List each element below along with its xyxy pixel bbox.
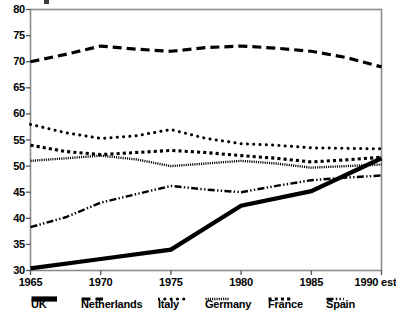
data-series-group [31,46,382,268]
x-axis-tick-label: 1990 est [355,276,396,288]
x-axis-tick-label: 1965 [19,276,43,288]
x-axis-tick-label: 1980 [229,276,253,288]
long-dashed-swatch [81,289,111,297]
legend-label: Germany [205,298,251,311]
plot-frame [31,10,382,271]
x-axis-tick-label: 1975 [159,276,183,288]
round-dotted-swatch [158,289,192,297]
legend-item-germany[interactable]: Germany [205,288,237,314]
chart-legend: UKNetherlandsItalyGermanyFranceSpain [0,288,390,314]
x-axis-tick-label: 1970 [89,276,113,288]
series-line-italy [31,124,382,149]
legend-label: Italy [158,298,179,311]
series-line-uk [31,158,382,268]
legend-item-italy[interactable]: Italy [158,288,192,314]
series-line-netherlands [31,46,382,67]
legend-label: Spain [326,298,355,311]
thick-solid-swatch [31,289,65,297]
dash-dot-swatch [326,289,352,297]
legend-item-spain[interactable]: Spain [326,288,352,314]
square-dotted-swatch [268,289,300,297]
legend-item-france[interactable]: France [268,288,300,314]
legend-item-netherlands[interactable]: Netherlands [81,288,111,314]
x-axis-tick-label: 1985 [299,276,323,288]
legend-item-uk[interactable]: UK [31,288,65,314]
legend-label: Netherlands [81,298,142,311]
fine-dotted-swatch [205,289,237,297]
legend-label: UK [31,298,47,311]
legend-label: France [268,298,303,311]
